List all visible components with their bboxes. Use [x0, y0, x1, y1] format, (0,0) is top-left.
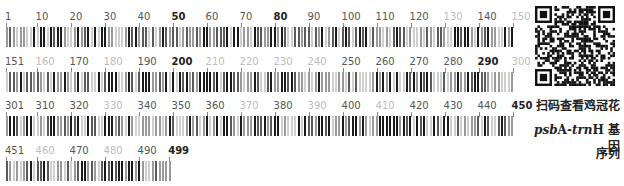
position-label: 220 — [240, 57, 259, 67]
nucleotide-bar — [104, 161, 106, 181]
nucleotide-bar — [118, 161, 120, 181]
position-label: 130 — [444, 12, 463, 22]
nucleotide-bar — [60, 161, 62, 181]
nucleotide-bar — [145, 161, 147, 181]
position-label: 150 — [512, 12, 531, 22]
position-label: 290 — [478, 57, 499, 67]
position-label: 50 — [172, 12, 186, 22]
position-label: 180 — [104, 57, 123, 67]
position-label: 300 — [512, 57, 531, 67]
nucleotide-bar — [169, 161, 171, 181]
nucleotide-bar — [74, 161, 76, 181]
position-label: 460 — [36, 146, 55, 156]
nucleotide-bar — [98, 161, 100, 181]
position-label: 90 — [308, 12, 321, 22]
nucleotide-bar — [50, 161, 52, 181]
nucleotide-bar — [81, 161, 83, 181]
position-label: 390 — [308, 101, 327, 111]
position-label: 340 — [138, 101, 157, 111]
position-label: 370 — [240, 101, 259, 111]
position-label: 410 — [376, 101, 395, 111]
position-label: 490 — [138, 146, 157, 156]
position-label: 40 — [138, 12, 151, 22]
nucleotide-bar — [57, 161, 59, 181]
nucleotide-bar — [135, 161, 137, 181]
position-label: 430 — [444, 101, 463, 111]
nucleotide-bar — [91, 161, 93, 181]
nucleotide-bar — [6, 161, 8, 181]
position-label: 310 — [36, 101, 55, 111]
position-label: 320 — [70, 101, 89, 111]
position-label: 210 — [206, 57, 225, 67]
position-label: 270 — [410, 57, 429, 67]
position-label: 350 — [172, 101, 191, 111]
gene-name-a: A- — [558, 123, 572, 137]
position-label: 170 — [70, 57, 89, 67]
position-label: 330 — [104, 101, 123, 111]
nucleotide-bar — [131, 161, 133, 181]
position-label: 140 — [478, 12, 497, 22]
nucleotide-bar — [64, 161, 66, 181]
position-label: 60 — [206, 12, 219, 22]
position-label: 160 — [36, 57, 55, 67]
position-label: 440 — [478, 101, 497, 111]
nucleotide-bar — [152, 161, 154, 181]
position-label: 380 — [274, 101, 293, 111]
qr-code[interactable] — [535, 6, 615, 86]
nucleotide-bar — [165, 161, 167, 181]
caption-line-3: 序列 — [528, 144, 620, 161]
position-label: 20 — [70, 12, 83, 22]
nucleotide-bar — [40, 161, 42, 181]
position-label: 250 — [342, 57, 361, 67]
caption-line-1: 扫码查看鸡冠花 — [528, 96, 620, 113]
position-label: 190 — [138, 57, 157, 67]
nucleotide-bar — [159, 161, 161, 181]
position-label: 100 — [342, 12, 361, 22]
position-label: 80 — [274, 12, 288, 22]
nucleotide-bar — [16, 161, 18, 181]
nucleotide-bar — [70, 161, 72, 181]
nucleotide-bar — [43, 161, 45, 181]
nucleotide-bar — [138, 161, 140, 181]
position-label: 499 — [168, 146, 189, 156]
position-label: 110 — [376, 12, 395, 22]
position-label: 30 — [104, 12, 117, 22]
nucleotide-bar — [30, 161, 32, 181]
nucleotide-bar — [115, 161, 117, 181]
position-label: 240 — [308, 57, 327, 67]
position-label: 470 — [70, 146, 89, 156]
position-label: 1 — [5, 12, 11, 22]
gene-name-psb: psb — [534, 123, 558, 137]
nucleotide-bar — [111, 161, 113, 181]
nucleotide-bar — [148, 161, 150, 181]
position-label: 420 — [410, 101, 429, 111]
nucleotide-bar — [94, 161, 96, 181]
nucleotide-bar — [87, 161, 89, 181]
nucleotide-bar — [47, 161, 49, 181]
nucleotide-bar — [33, 161, 35, 181]
nucleotide-bar — [37, 161, 39, 181]
qr-code-pattern — [535, 6, 615, 86]
nucleotide-bar — [84, 161, 86, 181]
nucleotide-bar — [101, 161, 103, 181]
position-label: 400 — [342, 101, 361, 111]
nucleotide-bar — [53, 161, 55, 181]
position-label: 120 — [410, 12, 429, 22]
position-label: 70 — [240, 12, 253, 22]
position-label: 451 — [5, 146, 24, 156]
position-label: 10 — [36, 12, 49, 22]
position-label: 260 — [376, 57, 395, 67]
nucleotide-bar — [125, 161, 127, 181]
nucleotide-bar — [67, 161, 69, 181]
position-label: 200 — [172, 57, 193, 67]
position-label: 480 — [104, 146, 123, 156]
nucleotide-bar — [9, 161, 11, 181]
nucleotide-bar — [77, 161, 79, 181]
position-label: 151 — [5, 57, 24, 67]
nucleotide-bar — [142, 161, 144, 181]
position-label: 301 — [5, 101, 24, 111]
nucleotide-bar — [155, 161, 157, 181]
nucleotide-bar — [13, 161, 15, 181]
nucleotide-bar — [26, 161, 28, 181]
nucleotide-bar — [162, 161, 164, 181]
